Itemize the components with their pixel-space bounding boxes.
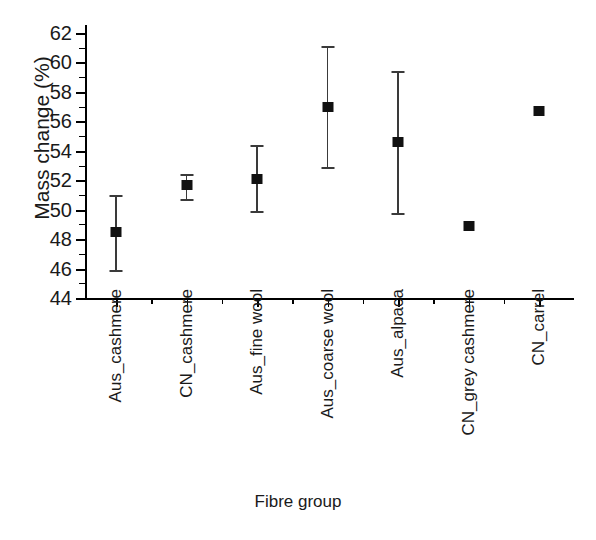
- y-tick-minor: [79, 166, 85, 167]
- x-axis-label: Aus_alpaca: [398, 289, 418, 378]
- error-bar-cap-lower: [251, 211, 264, 213]
- y-tick-label: 60: [50, 51, 72, 74]
- y-tick-label: 52: [50, 169, 72, 192]
- error-bar-cap-upper: [321, 46, 334, 48]
- data-point-marker: [534, 106, 545, 116]
- y-tick-mark: [76, 180, 85, 182]
- error-bar-cap-lower: [180, 199, 193, 201]
- y-tick-mark: [76, 121, 85, 123]
- y-tick-mark: [76, 298, 85, 300]
- y-tick-label: 44: [50, 287, 72, 310]
- y-tick-minor: [79, 224, 85, 225]
- figure-canvas: Mass change (%) 44464850525456586062 Aus…: [0, 0, 596, 540]
- y-tick-label: 46: [50, 257, 72, 280]
- x-axis-label: Aus_fine wool: [257, 289, 277, 395]
- data-point-marker: [393, 137, 404, 147]
- y-tick-mark: [76, 239, 85, 241]
- error-bar-cap-lower: [110, 270, 123, 272]
- error-bar-cap-upper: [251, 145, 264, 147]
- x-axis-label-text: CN_cashmere: [177, 289, 197, 398]
- x-tick-minor: [222, 298, 224, 304]
- x-axis-label-text: Aus_coarse wool: [318, 289, 338, 418]
- y-tick-mark: [76, 33, 85, 35]
- y-tick-minor: [79, 195, 85, 196]
- error-bar-cap-upper: [180, 174, 193, 176]
- x-axis-label: CN_carrel: [539, 289, 559, 366]
- y-tick-mark: [76, 269, 85, 271]
- data-point-marker: [252, 174, 263, 184]
- y-tick-mark: [76, 62, 85, 64]
- y-tick-minor: [79, 48, 85, 49]
- y-tick-mark: [76, 92, 85, 94]
- x-axis-label-text: CN_grey cashmere: [459, 289, 479, 435]
- data-point-marker: [111, 227, 122, 237]
- error-bar-cap-lower: [392, 213, 405, 215]
- y-tick-minor: [79, 107, 85, 108]
- x-tick-minor: [363, 298, 365, 304]
- y-axis-line: [85, 25, 87, 300]
- data-point-marker: [181, 180, 192, 190]
- data-point-marker: [322, 102, 333, 112]
- x-axis-label: CN_grey cashmere: [469, 289, 489, 435]
- y-tick-minor: [79, 254, 85, 255]
- x-tick-minor: [292, 298, 294, 304]
- x-tick-minor: [151, 298, 153, 304]
- y-tick-mark: [76, 151, 85, 153]
- y-tick-label: 48: [50, 228, 72, 251]
- error-bar-cap-lower: [321, 167, 334, 169]
- x-axis-label-text: Aus_alpaca: [388, 289, 408, 378]
- x-tick-minor: [433, 298, 435, 304]
- error-bar-cap-upper: [392, 71, 405, 73]
- y-tick-minor: [79, 77, 85, 78]
- x-axis-label: CN_cashmere: [187, 289, 207, 398]
- y-tick-label: 54: [50, 139, 72, 162]
- error-bar-cap-upper: [110, 195, 123, 197]
- plot-area: 44464850525456586062: [85, 25, 574, 300]
- y-tick-minor: [79, 283, 85, 284]
- y-tick-label: 62: [50, 22, 72, 45]
- data-point-marker: [463, 221, 474, 231]
- x-axis-label: Aus_cashmere: [116, 289, 136, 402]
- y-tick-label: 56: [50, 110, 72, 133]
- x-axis-label-text: Aus_fine wool: [247, 289, 267, 395]
- x-axis-label-text: Aus_cashmere: [106, 289, 126, 402]
- x-tick-minor: [504, 298, 506, 304]
- y-tick-minor: [79, 136, 85, 137]
- y-tick-label: 50: [50, 198, 72, 221]
- y-tick-mark: [76, 210, 85, 212]
- x-axis-label-text: CN_carrel: [529, 289, 549, 366]
- x-axis-label: Aus_coarse wool: [328, 289, 348, 418]
- y-tick-label: 58: [50, 80, 72, 103]
- x-axis-title: Fibre group: [0, 492, 596, 512]
